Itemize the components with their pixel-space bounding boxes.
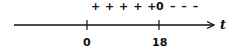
axis-variable-label: t [220, 18, 226, 31]
tick-label-18: 18 [152, 37, 167, 49]
tick-label-0: 0 [83, 37, 91, 49]
sign-chart: + + + + + 0 – – – t 0 18 [0, 0, 235, 53]
number-line [0, 0, 235, 53]
